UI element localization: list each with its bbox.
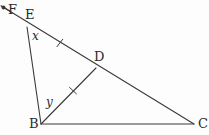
point-label-C: C <box>198 117 208 130</box>
point-label-F: F <box>8 3 17 16</box>
point-label-D: D <box>94 50 104 63</box>
geometry-figure: F E D B C x y <box>0 0 209 135</box>
ray-F-to-C <box>3 7 194 124</box>
point-label-E: E <box>25 8 35 21</box>
point-label-B: B <box>29 117 39 130</box>
angle-label-x: x <box>32 30 39 42</box>
angle-label-y: y <box>46 96 53 108</box>
